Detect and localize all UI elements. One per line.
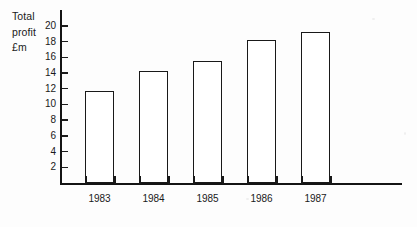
x-axis-label: 1987	[304, 193, 326, 204]
y-tick-label: 8	[38, 114, 56, 125]
y-tick-label: 10	[38, 98, 56, 109]
x-tick	[114, 176, 116, 184]
x-tick	[85, 176, 87, 184]
x-axis-line	[60, 183, 402, 185]
y-tick-label: 12	[38, 83, 56, 94]
y-tick-label: 18	[38, 36, 56, 47]
x-tick	[330, 176, 332, 184]
y-tick	[62, 119, 68, 121]
bar	[139, 71, 168, 183]
y-tick	[62, 25, 68, 27]
y-tick	[62, 41, 68, 43]
y-tick	[62, 151, 68, 153]
bar	[301, 32, 330, 183]
x-axis-label: 1986	[250, 193, 272, 204]
y-tick	[62, 104, 68, 106]
bar	[193, 61, 222, 183]
y-tick-label: 4	[38, 146, 56, 157]
bar	[247, 40, 276, 183]
y-tick	[62, 167, 68, 169]
y-tick	[62, 57, 68, 59]
y-axis-line	[60, 10, 62, 185]
x-tick	[139, 176, 141, 184]
y-tick-label: 6	[38, 130, 56, 141]
y-tick-label: 14	[38, 67, 56, 78]
y-tick	[62, 135, 68, 137]
x-tick	[222, 176, 224, 184]
x-tick	[247, 176, 249, 184]
y-tick-label: 16	[38, 51, 56, 62]
bar	[85, 91, 114, 183]
y-tick-label: 2	[38, 161, 56, 172]
x-axis-label: 1984	[142, 193, 164, 204]
x-tick	[193, 176, 195, 184]
x-tick	[301, 176, 303, 184]
x-axis-label: 1983	[88, 193, 110, 204]
x-axis-label: 1985	[196, 193, 218, 204]
x-tick	[276, 176, 278, 184]
y-tick-label: 20	[38, 20, 56, 31]
y-tick	[62, 72, 68, 74]
bar-chart: Total profit £m 2468101214161820 1983198…	[0, 0, 417, 227]
y-tick	[62, 88, 68, 90]
x-tick	[168, 176, 170, 184]
plot-area: 2468101214161820 19831984198519861987	[0, 0, 417, 227]
